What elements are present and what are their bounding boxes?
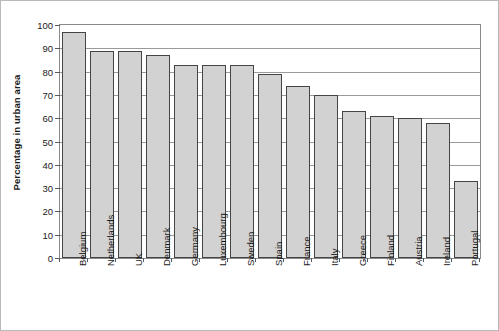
x-tick-mark [171,258,172,262]
bar-slot [230,25,254,258]
x-tick-mark [59,258,60,262]
bar-slot [454,25,478,258]
y-tick-label: 70 [42,89,53,100]
bar [258,74,282,258]
x-tick-mark [283,258,284,262]
plot-area: 0102030405060708090100 [59,24,481,259]
x-tick-mark [143,258,144,262]
bar [118,51,142,258]
y-tick-label: 50 [42,136,53,147]
x-tick-mark [311,258,312,262]
bar-series [60,25,480,258]
y-tick-label: 40 [42,159,53,170]
bar-slot [146,25,170,258]
bar-slot [258,25,282,258]
y-tick-label: 20 [42,206,53,217]
y-axis-title-label: Percentage in urban area [12,74,23,190]
y-axis-title: Percentage in urban area [5,1,29,263]
chart-figure: Percentage in urban area 010203040506070… [0,0,499,331]
x-tick-mark [339,258,340,262]
x-tick-mark [451,258,452,262]
x-tick-mark [479,258,480,262]
bar [286,86,310,258]
x-tick-mark [115,258,116,262]
bar-slot [286,25,310,258]
bar-slot [426,25,450,258]
x-tick-mark [367,258,368,262]
x-axis-label: Spain [273,242,284,266]
y-tick-label: 90 [42,43,53,54]
x-tick-mark [395,258,396,262]
bar-slot [370,25,394,258]
bar [230,65,254,258]
x-axis: BelgiumNetherlandsUKDenmarkGermanyLuxemb… [59,258,479,331]
bar [62,32,86,258]
y-tick-label: 30 [42,183,53,194]
bar [314,95,338,258]
x-tick-mark [227,258,228,262]
x-tick-mark [255,258,256,262]
y-tick-label: 60 [42,113,53,124]
bar-slot [118,25,142,258]
bar-slot [398,25,422,258]
y-tick-label: 100 [37,20,53,31]
y-tick-label: 80 [42,66,53,77]
bar-slot [342,25,366,258]
x-tick-mark [87,258,88,262]
bar-slot [314,25,338,258]
bar-slot [62,25,86,258]
bar-slot [174,25,198,258]
y-tick-label: 10 [42,229,53,240]
x-tick-mark [199,258,200,262]
y-tick-label: 0 [48,253,53,264]
x-tick-mark [423,258,424,262]
